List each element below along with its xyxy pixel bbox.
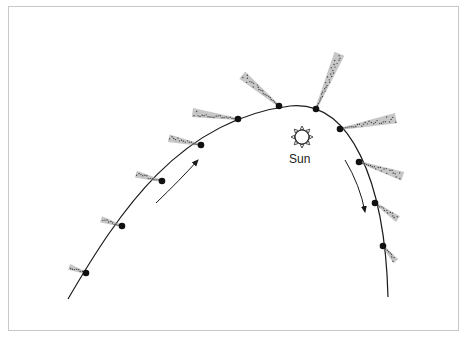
arrow-descending [345, 160, 365, 212]
comet-nucleus [83, 270, 90, 277]
comet-tail [315, 52, 344, 110]
comet-nucleus [372, 200, 379, 207]
comet-tail [168, 134, 201, 146]
comet-nucleus [337, 126, 344, 133]
comet-nucleus [313, 106, 320, 113]
sun-icon [291, 126, 313, 148]
comet-nucleus [276, 103, 283, 110]
direction-arrows [156, 160, 365, 212]
comet-nucleus [119, 223, 126, 230]
comet-nucleus [380, 243, 387, 250]
sun-label: Sun [289, 152, 310, 166]
comet-nucleus [198, 142, 205, 149]
comet-nucleus [159, 178, 166, 185]
comet-nucleus [356, 159, 363, 166]
comet-nuclei [83, 103, 387, 277]
orbit-diagram [0, 0, 467, 340]
comet-tails [68, 52, 404, 274]
comet-tail [192, 108, 238, 120]
comet-nucleus [235, 116, 242, 123]
comet-orbit [68, 106, 388, 299]
